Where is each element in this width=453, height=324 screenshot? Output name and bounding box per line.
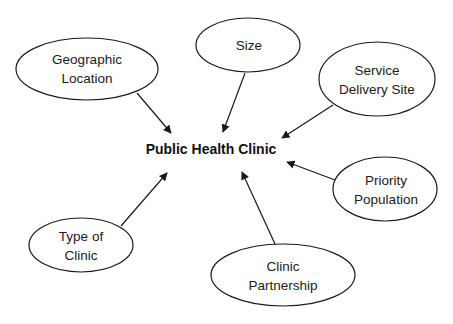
diagram-shapes: [0, 0, 453, 324]
node-label-line: Service: [339, 61, 415, 80]
arrow-type-of-clinic: [121, 173, 167, 226]
arrow-priority-population: [287, 162, 335, 180]
node-label-line: Clinic: [59, 246, 103, 265]
node-label-line: Delivery Site: [339, 80, 415, 99]
node-label-line: Location: [52, 69, 122, 88]
concept-diagram: Public Health Clinic Geographic Location…: [0, 0, 453, 324]
node-label-line: Clinic: [248, 257, 317, 276]
center-node-label: Public Health Clinic: [146, 141, 277, 157]
arrow-size: [223, 73, 245, 132]
node-type-of-clinic: Type of Clinic: [59, 227, 103, 265]
node-label-line: Geographic: [52, 50, 122, 69]
node-label-line: Priority: [354, 171, 418, 190]
node-label-line: Partnership: [248, 276, 317, 295]
arrow-clinic-partnership: [242, 172, 275, 244]
node-size: Size: [236, 36, 262, 55]
node-service-delivery-site: Service Delivery Site: [339, 61, 415, 99]
node-label-line: Population: [354, 190, 418, 209]
node-label-line: Size: [236, 36, 262, 55]
arrow-service-delivery-site: [282, 105, 333, 138]
node-clinic-partnership: Clinic Partnership: [248, 257, 317, 295]
node-label-line: Type of: [59, 227, 103, 246]
arrow-geographic-location: [137, 93, 171, 133]
node-geographic-location: Geographic Location: [52, 50, 122, 88]
node-priority-population: Priority Population: [354, 171, 418, 209]
